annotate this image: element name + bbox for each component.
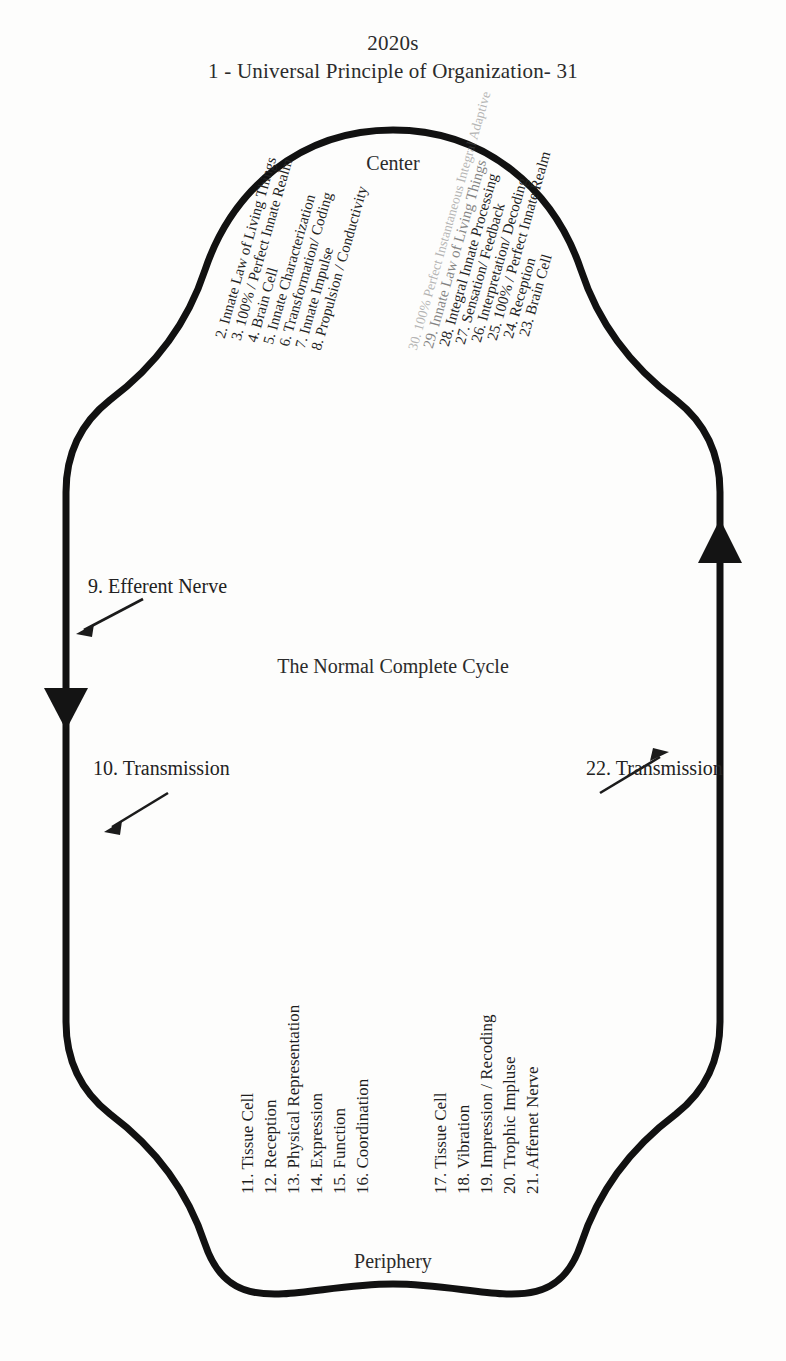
step-label-20: 20. Trophic Impluse [501,1057,518,1194]
step-label-13: 13. Physical Representation [285,1005,302,1194]
step-label-17: 17. Tissue Cell [432,1092,449,1194]
pole-label-periphery: Periphery [0,1250,786,1273]
cycle-caption: The Normal Complete Cycle [0,655,786,678]
cycle-outline [66,130,720,1294]
step-label-12: 12. Reception [262,1100,279,1194]
pointer-arrow-transmission-down [104,793,168,835]
pole-label-center: Center [0,152,786,175]
downward-arrowhead [44,688,88,730]
step-label-15: 15. Function [331,1108,348,1194]
step-label-19: 19. Impression / Recoding [478,1015,495,1194]
step-label-18: 18. Vibration [455,1105,472,1194]
step-label-11: 11. Tissue Cell [239,1093,256,1194]
step-label-21: 21. Affernet Nerve [524,1066,541,1194]
step-label-14: 14. Expression [308,1093,325,1194]
stage-label-efferent-nerve: 9. Efferent Nerve [88,575,227,598]
stage-label-transmission-down: 10. Transmission [93,757,230,780]
step-label-16: 16. Coordination [354,1079,371,1194]
diagram-page: 2020s 1 - Universal Principle of Organiz… [0,0,786,1361]
cycle-diagram [0,0,786,1361]
upward-arrowhead [698,519,742,563]
pointer-arrow-efferent [76,599,143,637]
stage-label-transmission-up: 22. Transmission [586,757,723,780]
